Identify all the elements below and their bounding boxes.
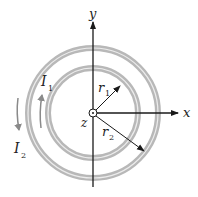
x-axis-label: x [183,105,191,120]
current-i1-arrow [40,95,42,128]
svg-text:2: 2 [109,133,114,142]
svg-text:I: I [40,73,47,89]
svg-text:r: r [98,80,105,95]
current-i2-arrow [17,98,19,130]
svg-text:r: r [102,124,109,139]
r2-label: r 2 [102,124,114,142]
diagram-canvas: y x z r 1 r 2 I 1 I 2 [0,0,198,197]
svg-text:1: 1 [48,84,53,93]
z-axis-label: z [80,116,88,130]
r1-label: r 1 [98,80,110,98]
i2-label: I 2 [13,140,26,160]
svg-text:2: 2 [21,151,26,160]
z-axis-out-of-page-icon [89,109,97,117]
svg-text:1: 1 [105,89,110,98]
y-axis-label: y [88,6,97,21]
i1-label: I 1 [40,73,53,93]
svg-text:I: I [13,140,20,156]
